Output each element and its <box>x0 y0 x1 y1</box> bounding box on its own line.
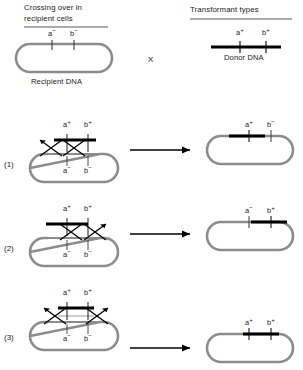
top-donor-dna <box>211 41 281 53</box>
row-3-transformant-allele-b: b+ <box>267 319 275 327</box>
row-2-recipient-circle <box>30 238 118 266</box>
row-3-recipient-allele-a-sign: − <box>67 332 71 339</box>
row-1-recipient-allele-b-sign: − <box>88 164 92 171</box>
row-3-donor-allele-a: a+ <box>63 289 71 297</box>
top-recipient-dna <box>16 40 112 72</box>
row-1-transformant-allele-a-sign: + <box>249 118 253 125</box>
row-2-transformant-allele-a: a− <box>245 207 253 215</box>
donor-allele-a-label: a+ <box>236 29 244 37</box>
row-2-transformant-circle <box>207 222 293 250</box>
row-2-recipient-allele-a-sign: − <box>67 248 71 255</box>
row-3-transformant-allele-a-sign: + <box>249 316 253 323</box>
donor-allele-b-label: b+ <box>262 29 270 37</box>
row-1-arrow-head <box>182 147 190 154</box>
donor-dna-caption: Donor DNA <box>224 53 264 63</box>
row-1-donor-allele-a: a+ <box>63 121 71 129</box>
row-3-recipient-allele-a: a− <box>63 335 71 343</box>
row-2-recipient-allele-b-sign: − <box>88 248 92 255</box>
row-2-arrow <box>130 231 190 238</box>
row-1-recipient-circle <box>30 154 118 182</box>
row-1-transformant-allele-b: b− <box>267 121 275 129</box>
row-2-transformant-allele-b: b+ <box>267 207 275 215</box>
figure-canvas: Crossing over in recipient cells Transfo… <box>0 0 303 370</box>
row-1-donor-allele-a-sign: + <box>67 118 71 125</box>
cross-symbol: X <box>148 55 153 65</box>
row-1-donor-allele-b: b+ <box>84 121 92 129</box>
row-1-transformant-circle <box>207 136 293 164</box>
row-1-recipient-allele-b: b− <box>84 167 92 175</box>
donor-allele-b-sign: + <box>266 26 270 33</box>
row-3-transformant-dna <box>207 328 293 362</box>
row-3-recipient-circle <box>30 322 118 350</box>
recipient-allele-a-sign: − <box>52 27 56 34</box>
row-3-donor-allele-a-sign: + <box>67 286 71 293</box>
row-3-recipient-allele-b-sign: − <box>88 332 92 339</box>
row-2-transformant-dna <box>207 216 293 250</box>
row-3-arrow-head <box>182 345 190 352</box>
row-2-donor-allele-b-sign: + <box>88 202 92 209</box>
row-3-donor-allele-b: b+ <box>84 289 92 297</box>
recipient-dna-circle <box>16 44 112 72</box>
row-1-recipient-allele-a: a− <box>63 167 71 175</box>
row-1-recipient-group <box>30 134 118 182</box>
row-1-transformant-allele-a: a+ <box>245 121 253 129</box>
row-3-donor-allele-b-sign: + <box>88 286 92 293</box>
row-3-recipient-group <box>30 302 118 350</box>
row-3-recipient-allele-b: b− <box>84 335 92 343</box>
row-2-donor-allele-a-sign: + <box>67 202 71 209</box>
row-1-number: (1) <box>4 160 14 169</box>
row-2-donor-allele-b: b+ <box>84 205 92 213</box>
recipient-allele-b-label: b− <box>70 30 78 38</box>
row-2-donor-allele-a: a+ <box>63 205 71 213</box>
row-1-arrow <box>130 147 190 154</box>
recipient-allele-b-sign: − <box>74 27 78 34</box>
row-3-transformant-allele-b-sign: + <box>271 316 275 323</box>
row-2-recipient-allele-a: a− <box>63 251 71 259</box>
row-2-arrow-head <box>182 231 190 238</box>
donor-allele-a-sign: + <box>240 26 244 33</box>
recipient-dna-caption: Recipient DNA <box>31 77 82 87</box>
row-3-transformant-circle <box>207 334 293 362</box>
row-3-number: (3) <box>4 333 14 342</box>
row-1-transformant-allele-b-sign: − <box>271 118 275 125</box>
row-2-transformant-allele-a-sign: − <box>249 204 253 211</box>
row-2-recipient-group <box>30 218 118 266</box>
row-2-recipient-allele-b: b− <box>84 251 92 259</box>
row-1-donor-allele-b-sign: + <box>88 118 92 125</box>
row-3-arrow <box>130 345 190 352</box>
row-3-transformant-allele-a: a+ <box>245 319 253 327</box>
recipient-allele-a-label: a− <box>48 30 56 38</box>
row-2-number: (2) <box>4 244 14 253</box>
row-1-recipient-allele-a-sign: − <box>67 164 71 171</box>
row-2-transformant-allele-b-sign: + <box>271 204 275 211</box>
row-1-transformant-dna <box>207 130 293 164</box>
